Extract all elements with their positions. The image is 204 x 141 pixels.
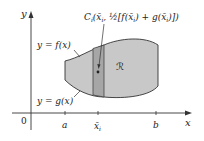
y-axis-label: y: [20, 8, 27, 19]
y-axis-arrow-icon: [29, 11, 34, 18]
tick-label-a: a: [62, 120, 67, 130]
f-leader-line: [74, 50, 80, 57]
x-axis-arrow-icon: [185, 111, 192, 116]
tick-label-xi: x̄i: [94, 121, 101, 132]
centroid-label: Ci(x̄i, ½[f(x̄i) + g(x̄i)]): [84, 12, 179, 23]
origin-label: 0: [21, 116, 27, 126]
x-axis-label: x: [185, 117, 191, 128]
g-leader-line: [74, 91, 80, 97]
tick-label-b: b: [153, 120, 159, 130]
region-r: [65, 39, 158, 98]
region-diagram: y x 0 a x̄i b y = f(x) y = g(x) ℛ Ci(x̄i…: [0, 0, 204, 141]
upper-curve-label: y = f(x): [36, 40, 71, 50]
region-label: ℛ: [116, 61, 124, 72]
lower-curve-label: y = g(x): [36, 96, 74, 106]
centroid-point: [97, 71, 100, 74]
